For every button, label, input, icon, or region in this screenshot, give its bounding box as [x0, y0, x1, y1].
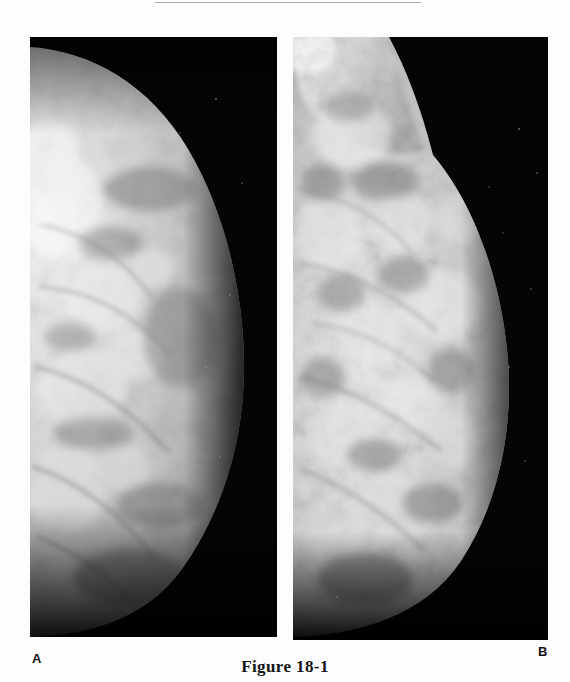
- figure-page: A B Figure 18-1: [0, 0, 570, 682]
- figure-caption: Figure 18-1: [0, 657, 570, 677]
- mammogram-image-a: [30, 37, 277, 637]
- mammogram-panel-b: [293, 37, 548, 640]
- top-horizontal-rule: [155, 2, 421, 3]
- mammogram-panel-a: [30, 37, 277, 637]
- mammogram-image-b: [293, 37, 548, 640]
